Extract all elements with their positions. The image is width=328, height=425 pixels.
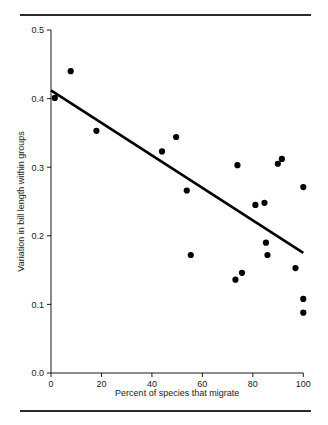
y-tick-label: 0.3 [31,163,44,173]
figure-container: 0.00.10.20.30.40.5020406080100Percent of… [0,0,328,425]
trendline-group [51,90,303,253]
data-point [300,310,306,316]
data-point [252,202,258,208]
data-point [300,184,306,190]
x-tick-label: 0 [48,379,53,389]
data-point [232,277,238,283]
data-point [239,270,245,276]
x-tick-label: 100 [296,379,311,389]
data-point [188,252,194,258]
y-tick-label: 0.0 [31,368,44,378]
data-point [279,156,285,162]
data-point [263,240,269,246]
data-points-group [52,68,307,316]
data-point [300,296,306,302]
data-point [292,265,298,271]
data-point [173,134,179,140]
x-tick-label: 80 [248,379,258,389]
data-point [159,148,165,154]
y-tick-label: 0.4 [31,94,44,104]
data-point [52,95,58,101]
axis-labels-group: 0.00.10.20.30.40.5020406080100Percent of… [16,25,311,398]
regression-trendline [51,90,303,253]
data-point [234,162,240,168]
data-point [275,161,281,167]
y-axis-title: Variation in bill length within groups [16,131,26,272]
x-tick-label: 20 [96,379,106,389]
y-tick-label: 0.2 [31,231,44,241]
data-point [68,68,74,74]
y-tick-label: 0.5 [31,25,44,35]
scatter-plot: 0.00.10.20.30.40.5020406080100Percent of… [0,0,328,425]
data-point [93,128,99,134]
data-point [261,200,267,206]
data-point [184,187,190,193]
y-tick-label: 0.1 [31,300,44,310]
data-point [264,252,270,258]
x-axis-title: Percent of species that migrate [115,388,239,398]
